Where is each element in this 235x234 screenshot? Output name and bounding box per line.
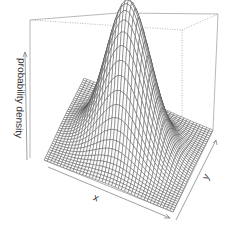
y-axis-label: y: [200, 172, 212, 182]
x-axis-label: x: [92, 192, 101, 204]
persp-plot: x y probability density: [0, 0, 235, 234]
density-surface: [44, 0, 213, 212]
z-axis-label: probability density: [14, 58, 28, 138]
